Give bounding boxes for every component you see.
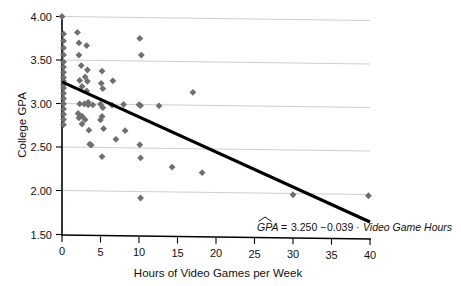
equation-dot: · — [356, 221, 360, 233]
data-point — [136, 141, 143, 148]
y-tick-label-4.00: 4.00 — [31, 11, 52, 23]
gridlines — [62, 17, 370, 195]
data-point — [76, 77, 83, 84]
data-point — [59, 13, 66, 20]
y-tick-label-3.50: 3.50 — [31, 54, 52, 66]
data-point — [156, 102, 163, 109]
y-tick-label-3.00: 3.00 — [31, 98, 52, 110]
data-point — [74, 29, 81, 36]
data-point — [190, 89, 197, 96]
scatter-plot-svg: 4.00 3.50 3.00 2.50 2.00 1.50 0 5 10 15 … — [0, 0, 461, 286]
gridline-2.00 — [62, 191, 370, 195]
equation-slope: 0.039 — [327, 221, 353, 233]
regression-equation: GPA = 3.250 − 0.039 · Video Game Hours — [257, 217, 453, 233]
data-point — [199, 169, 206, 176]
data-point — [99, 153, 106, 160]
x-tick-label-25: 25 — [248, 248, 260, 260]
data-point — [78, 62, 85, 69]
data-point — [99, 68, 106, 75]
data-point — [86, 127, 93, 134]
data-point — [84, 67, 91, 74]
data-point — [60, 45, 67, 52]
data-point — [100, 125, 107, 132]
data-point — [138, 52, 145, 59]
y-tick-label-1.50: 1.50 — [31, 229, 52, 241]
equation-intercept: 3.250 — [291, 221, 317, 233]
data-point — [137, 195, 144, 202]
data-point — [76, 39, 83, 46]
data-point — [109, 77, 116, 84]
y-axis-title: College GPA — [16, 92, 28, 158]
data-point — [290, 191, 297, 198]
chart-figure: 4.00 3.50 3.00 2.50 2.00 1.50 0 5 10 15 … — [0, 0, 461, 286]
x-tick-label-0: 0 — [59, 245, 65, 257]
data-point — [60, 51, 67, 58]
equation-response: GPA — [257, 221, 278, 233]
y-axis-tick-labels: 4.00 3.50 3.00 2.50 2.00 1.50 — [31, 11, 52, 241]
data-point — [60, 31, 67, 38]
data-point — [169, 164, 176, 171]
regression-line — [62, 82, 370, 222]
x-tick-label-30: 30 — [287, 248, 299, 260]
data-point — [76, 52, 83, 59]
data-point — [365, 192, 372, 199]
x-axis-title: Hours of Video Games per Week — [134, 267, 303, 279]
x-tick-label-20: 20 — [210, 247, 222, 259]
gridline-4.00 — [62, 17, 370, 21]
equation-predictor: Video Game Hours — [363, 221, 453, 233]
gridline-3.50 — [62, 60, 370, 64]
equation-minus: − — [320, 221, 326, 233]
data-point — [113, 136, 120, 143]
x-tick-label-35: 35 — [325, 249, 337, 261]
data-point — [122, 127, 129, 134]
data-point — [83, 42, 90, 49]
data-point — [60, 121, 67, 128]
equation-equals: = — [281, 221, 287, 233]
data-point — [98, 80, 105, 87]
data-point — [99, 85, 106, 92]
y-tick-label-2.00: 2.00 — [31, 185, 52, 197]
data-point — [60, 38, 67, 45]
data-point — [137, 155, 144, 162]
data-point — [120, 101, 127, 108]
x-tick-label-10: 10 — [133, 246, 145, 258]
axes — [61, 15, 371, 239]
x-axis-tick-labels: 0 5 10 15 20 25 30 35 40 — [59, 245, 376, 261]
data-point — [136, 35, 143, 42]
x-tick-label-15: 15 — [171, 247, 183, 259]
y-tick-label-2.50: 2.50 — [31, 141, 52, 153]
x-tick-label-5: 5 — [97, 246, 103, 258]
x-tick-label-40: 40 — [364, 249, 376, 261]
